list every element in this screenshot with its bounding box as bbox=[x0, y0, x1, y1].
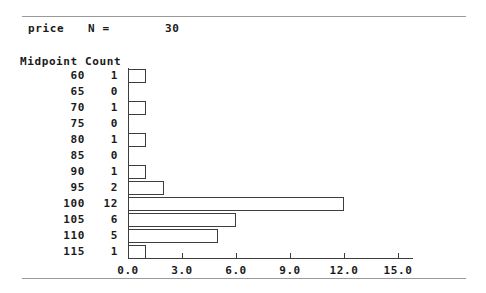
histogram-rows: 6016507017508018509019521001210561105115… bbox=[0, 68, 486, 260]
histogram-bar bbox=[128, 229, 218, 243]
x-axis-tick-label: 3.0 bbox=[152, 264, 212, 277]
histogram-bar bbox=[128, 197, 344, 211]
midpoint-value: 100 bbox=[20, 197, 85, 210]
histogram-row: 750 bbox=[0, 116, 486, 132]
x-axis-tick-label: 0.0 bbox=[98, 264, 158, 277]
x-axis-tick bbox=[182, 253, 183, 259]
midpoint-value: 80 bbox=[20, 133, 85, 146]
count-value: 1 bbox=[85, 245, 118, 258]
histogram-row: 601 bbox=[0, 68, 486, 84]
histogram-row: 850 bbox=[0, 148, 486, 164]
histogram-row: 1056 bbox=[0, 212, 486, 228]
histogram-bar bbox=[128, 69, 146, 83]
histogram-row: 952 bbox=[0, 180, 486, 196]
x-axis-tick bbox=[398, 253, 399, 259]
histogram-row: 650 bbox=[0, 84, 486, 100]
count-value: 6 bbox=[85, 213, 118, 226]
midpoint-value: 115 bbox=[20, 245, 85, 258]
count-value: 1 bbox=[85, 101, 118, 114]
count-value: 0 bbox=[85, 117, 118, 130]
summary-header: price N = 30 bbox=[0, 22, 486, 36]
top-divider-rule bbox=[22, 16, 466, 17]
count-value: 12 bbox=[85, 197, 118, 210]
midpoint-value: 110 bbox=[20, 229, 85, 242]
histogram-bar bbox=[128, 245, 146, 259]
x-axis-tick-label: 6.0 bbox=[206, 264, 266, 277]
sample-size-value: 30 bbox=[165, 22, 179, 35]
histogram-bar bbox=[128, 165, 146, 179]
y-axis-line bbox=[128, 68, 129, 258]
count-value: 5 bbox=[85, 229, 118, 242]
midpoint-column-header: Midpoint bbox=[20, 55, 78, 68]
x-axis-tick bbox=[236, 253, 237, 259]
histogram-row: 901 bbox=[0, 164, 486, 180]
sample-size-label: N = bbox=[88, 22, 110, 35]
count-value: 1 bbox=[85, 165, 118, 178]
midpoint-value: 90 bbox=[20, 165, 85, 178]
count-value: 2 bbox=[85, 181, 118, 194]
x-axis-tick-label: 12.0 bbox=[314, 264, 374, 277]
midpoint-value: 60 bbox=[20, 69, 85, 82]
x-axis-tick bbox=[290, 253, 291, 259]
column-headers: Midpoint Count bbox=[0, 55, 486, 69]
midpoint-value: 75 bbox=[20, 117, 85, 130]
count-value: 1 bbox=[85, 69, 118, 82]
x-axis-tick bbox=[344, 253, 345, 259]
midpoint-value: 65 bbox=[20, 85, 85, 98]
count-column-header: Count bbox=[85, 55, 121, 68]
histogram-bar bbox=[128, 213, 236, 227]
count-value: 0 bbox=[85, 85, 118, 98]
histogram-output-panel: price N = 30 Midpoint Count 601650701750… bbox=[0, 0, 486, 293]
histogram-bar bbox=[128, 133, 146, 147]
histogram-row: 701 bbox=[0, 100, 486, 116]
histogram-row: 801 bbox=[0, 132, 486, 148]
midpoint-value: 85 bbox=[20, 149, 85, 162]
histogram-row: 1105 bbox=[0, 228, 486, 244]
bottom-divider-rule bbox=[22, 278, 466, 279]
x-axis-line bbox=[128, 258, 413, 259]
x-axis-tick-label: 15.0 bbox=[368, 264, 428, 277]
histogram-row: 10012 bbox=[0, 196, 486, 212]
x-axis-tick-label: 9.0 bbox=[260, 264, 320, 277]
count-value: 0 bbox=[85, 149, 118, 162]
histogram-bar bbox=[128, 101, 146, 115]
variable-name-label: price bbox=[28, 22, 64, 35]
x-axis-tick bbox=[128, 253, 129, 259]
midpoint-value: 95 bbox=[20, 181, 85, 194]
midpoint-value: 105 bbox=[20, 213, 85, 226]
count-value: 1 bbox=[85, 133, 118, 146]
midpoint-value: 70 bbox=[20, 101, 85, 114]
histogram-bar bbox=[128, 181, 164, 195]
